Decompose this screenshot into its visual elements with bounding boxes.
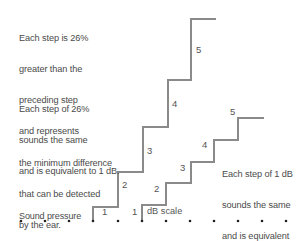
note-line: and is equivalent (222, 231, 293, 241)
note-line: greater than the (19, 64, 112, 74)
note-line: sounds the same (222, 200, 293, 210)
pressure-step-3-label: 3 (147, 146, 152, 156)
db-scale-label: dB scale (147, 206, 182, 216)
pressure-step-5-label: 5 (196, 45, 201, 55)
pressure-step-1-label: 1 (102, 207, 107, 217)
db-step-3-label: 3 (180, 163, 185, 173)
pressure-step-4-label: 4 (172, 99, 177, 109)
axis-label-line-1: Sound pressure (19, 212, 81, 222)
db-step-5-label: 5 (230, 107, 235, 117)
db-step-1-label: 1 (132, 207, 137, 217)
equivalence-note: Each step of 26% sounds the same and is … (19, 83, 120, 187)
note-line: sounds the same (19, 135, 120, 145)
db-step-note: Each step of 1 dB sounds the same and is… (222, 148, 293, 241)
db-step-2-label: 2 (154, 184, 159, 194)
db-step-4-label: 4 (202, 140, 207, 150)
sound-pressure-label: Sound pressure N m⁻² (19, 193, 81, 241)
pressure-step-2-label: 2 (122, 180, 127, 190)
note-line: Each step of 26% (19, 104, 120, 114)
note-line: and is equivalent to 1 dB. (19, 166, 120, 176)
note-line: Each step of 1 dB (222, 169, 293, 179)
note-line: Each step is 26% (19, 33, 112, 43)
